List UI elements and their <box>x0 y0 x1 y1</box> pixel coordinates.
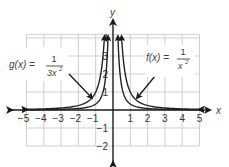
x-tick-label: −4 <box>35 113 47 124</box>
x-tick-labels: −5−4−3−2−112345 <box>18 113 203 124</box>
graph-plot: x y −5−4−3−2−112345 4321−1−2 g(x) = 1 3x… <box>0 0 229 167</box>
x-tick-label: 3 <box>162 113 168 124</box>
x-tick-label: 5 <box>197 113 203 124</box>
g-label-numerator: 1 <box>51 54 56 64</box>
f-function-label: f(x) = 1 x 2 <box>145 45 195 77</box>
f-label-exponent: 2 <box>184 59 189 65</box>
x-tick-label: −3 <box>52 113 64 124</box>
x-tick-label: −2 <box>70 113 82 124</box>
g-function-label: g(x) = 1 3x 2 <box>6 47 68 81</box>
f-label-prefix: f(x) = <box>146 52 169 63</box>
x-axis-label: x <box>215 105 222 116</box>
f-label-denominator: x <box>177 61 183 71</box>
y-tick-label: −1 <box>97 123 109 134</box>
x-tick-label: 4 <box>179 113 185 124</box>
x-tick-label: 1 <box>128 113 134 124</box>
y-tick-label: −2 <box>97 141 109 152</box>
g-label-exponent: 2 <box>58 66 63 72</box>
y-axis-label: y <box>109 7 116 18</box>
f-label-numerator: 1 <box>180 47 185 57</box>
g-label-denominator: 3x <box>47 68 57 78</box>
x-tick-label: −5 <box>18 113 30 124</box>
x-tick-label: 2 <box>145 113 151 124</box>
g-label-prefix: g(x) = <box>9 59 35 70</box>
g-annotation-arrow <box>69 74 92 98</box>
